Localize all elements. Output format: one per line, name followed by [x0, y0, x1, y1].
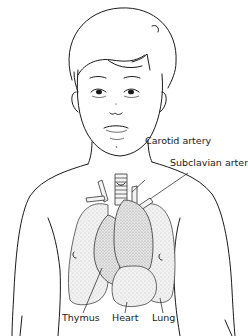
label-lung: Lung	[152, 313, 175, 323]
heart	[112, 266, 157, 307]
anatomy-illustration	[0, 0, 248, 336]
label-heart: Heart	[112, 313, 138, 323]
label-thymus: Thymus	[62, 313, 100, 323]
anatomy-figure: Carotid artery Subclavian artery Thymus …	[0, 0, 248, 336]
label-subclavian-artery: Subclavian artery	[170, 158, 248, 168]
label-carotid-artery: Carotid artery	[145, 136, 211, 146]
hair	[69, 8, 176, 92]
